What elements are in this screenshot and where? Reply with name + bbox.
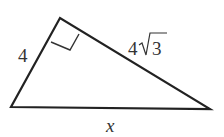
label-right-side: 4 3	[128, 33, 167, 59]
label-left-side: 4	[18, 45, 28, 66]
label-base: x	[105, 115, 115, 136]
triangle	[11, 18, 210, 109]
triangle-diagram: 4 4 3 x	[0, 0, 224, 137]
right-angle-marker	[51, 34, 79, 50]
svg-text:3: 3	[152, 38, 162, 59]
svg-text:4: 4	[128, 38, 138, 59]
